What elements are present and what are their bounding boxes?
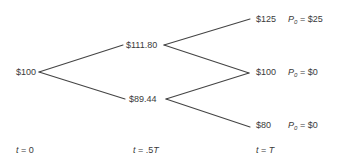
edge-root-down — [39, 72, 125, 99]
time-value: = — [259, 145, 269, 155]
edge-up-uu — [164, 19, 250, 45]
time-label-half: t = .5T — [133, 145, 159, 155]
time-label-0: t = 0 — [16, 145, 34, 155]
time-label-T: t = T — [256, 145, 274, 155]
edge-down-ud — [166, 73, 249, 99]
node-down-price: $89.44 — [129, 94, 157, 104]
payoff-uu: P0 = $25 — [288, 14, 323, 27]
payoff-value: = $25 — [300, 14, 323, 24]
time-value: = .5 — [136, 145, 154, 155]
time-suffix: T — [153, 145, 159, 155]
node-dd-price: $80 — [256, 120, 271, 130]
node-ud-price: $100 — [256, 67, 276, 77]
edge-up-ud — [164, 45, 249, 73]
time-value: = 0 — [19, 145, 34, 155]
payoff-subscript: 0 — [294, 72, 297, 78]
payoff-ud: P0 = $0 — [288, 67, 318, 80]
edge-root-up — [39, 45, 123, 72]
edge-down-dd — [166, 99, 250, 127]
payoff-value: = $0 — [300, 67, 318, 77]
node-uu-price: $125 — [256, 14, 276, 24]
payoff-dd: P0 = $0 — [288, 120, 318, 133]
time-suffix: T — [269, 145, 275, 155]
payoff-subscript: 0 — [294, 125, 297, 131]
payoff-value: = $0 — [300, 120, 318, 130]
payoff-subscript: 0 — [294, 19, 297, 25]
node-root-price: $100 — [16, 67, 36, 77]
node-up-price: $111.80 — [126, 40, 157, 50]
